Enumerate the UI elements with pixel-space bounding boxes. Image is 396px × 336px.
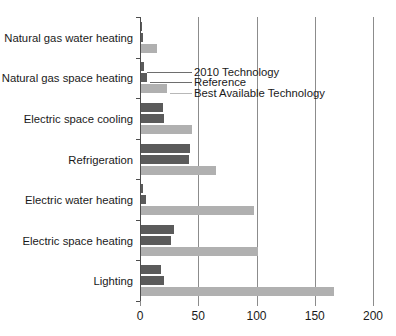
bar-5-0 — [141, 225, 174, 234]
bar-2-0 — [141, 103, 163, 112]
x-tick-label-100: 100 — [246, 309, 266, 323]
x-tick-label-150: 150 — [305, 309, 325, 323]
legend-label-best-available-technology: Best Available Technology — [194, 87, 325, 99]
x-tick-0 — [140, 301, 141, 306]
x-tick-label-200: 200 — [363, 309, 383, 323]
bar-3-2 — [141, 166, 216, 175]
legend-leader-2010-technology — [147, 72, 192, 73]
bar-4-1 — [141, 195, 146, 204]
bar-2-1 — [141, 114, 164, 123]
bar-5-2 — [141, 247, 258, 256]
category-label-2: Electric space cooling — [0, 113, 133, 125]
bar-6-0 — [141, 265, 161, 274]
y-tick-1 — [136, 58, 140, 59]
legend-leader-reference — [150, 82, 192, 83]
bar-3-0 — [141, 144, 190, 153]
category-label-0: Natural gas water heating — [0, 32, 133, 44]
category-label-1: Natural gas space heating — [0, 72, 133, 84]
bar-4-0 — [141, 184, 143, 193]
bar-1-0 — [141, 62, 144, 71]
legend-leader-best-available-technology — [170, 93, 192, 94]
gridline-150 — [315, 17, 316, 301]
y-tick-end — [136, 301, 140, 302]
x-tick-50 — [198, 301, 199, 306]
bar-1-1 — [141, 73, 147, 82]
y-tick-5 — [136, 220, 140, 221]
x-tick-150 — [315, 301, 316, 306]
x-tick-100 — [257, 301, 258, 306]
bar-6-1 — [141, 276, 164, 285]
bar-1-2 — [141, 84, 167, 93]
x-tick-200 — [373, 301, 374, 306]
bar-3-1 — [141, 155, 189, 164]
bar-0-0 — [141, 22, 142, 31]
bar-2-2 — [141, 125, 192, 134]
y-tick-3 — [136, 139, 140, 140]
plot-area — [140, 17, 373, 301]
gridline-50 — [198, 17, 199, 301]
x-tick-label-0: 0 — [137, 309, 144, 323]
y-tick-6 — [136, 260, 140, 261]
bar-4-2 — [141, 206, 254, 215]
bar-0-1 — [141, 33, 143, 42]
y-tick-4 — [136, 179, 140, 180]
x-tick-label-50: 50 — [192, 309, 205, 323]
gridline-200 — [373, 17, 374, 301]
bar-5-1 — [141, 236, 171, 245]
y-tick-0 — [136, 17, 140, 18]
category-label-5: Electric space heating — [0, 235, 133, 247]
category-label-6: Lighting — [0, 275, 133, 287]
y-tick-2 — [136, 98, 140, 99]
category-label-3: Refrigeration — [0, 154, 133, 166]
bar-0-2 — [141, 44, 157, 53]
bar-6-2 — [141, 287, 334, 296]
bar-chart: Natural gas water heatingNatural gas spa… — [0, 0, 396, 336]
gridline-100 — [257, 17, 258, 301]
category-label-4: Electric water heating — [0, 194, 133, 206]
